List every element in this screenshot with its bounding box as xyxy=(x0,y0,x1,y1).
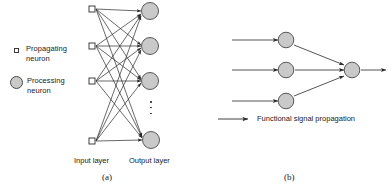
panel-b-hidden-to-output-arrows xyxy=(294,45,344,96)
panel-a-caption: (a) xyxy=(102,172,112,182)
arrow-icon xyxy=(218,115,252,123)
panel-b-output-node xyxy=(344,62,360,78)
panel-b: Functional signal propagation (b) xyxy=(196,0,392,191)
figure-root: Propagating neuron Processing neuron xyxy=(0,0,392,191)
output-layer-label: Output layer xyxy=(129,156,170,165)
panel-b-legend-label: Functional signal propagation xyxy=(257,114,355,123)
panel-a-network-diagram xyxy=(0,0,196,160)
vertical-ellipsis-icon xyxy=(147,101,155,118)
panel-a: Input layer Output layer (a) xyxy=(0,0,196,191)
panel-a-output-nodes xyxy=(142,3,160,149)
panel-b-legend: Functional signal propagation xyxy=(218,114,355,123)
panel-a-input-nodes xyxy=(89,6,95,144)
panel-b-input-arrows xyxy=(232,40,278,101)
input-layer-label: Input layer xyxy=(74,156,109,165)
panel-b-caption: (b) xyxy=(284,172,295,182)
panel-b-input-nodes xyxy=(278,32,294,109)
panel-a-connections xyxy=(96,9,142,141)
